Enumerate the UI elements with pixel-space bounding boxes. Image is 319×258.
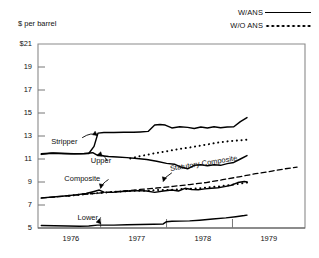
chart-root: W/ANS W/O ANS $ per barrel $211917151311… [0, 0, 319, 258]
y-tick-label: 19 [8, 62, 32, 71]
y-tick-label: 9 [8, 177, 32, 186]
x-tick-label: 1978 [183, 234, 223, 243]
y-tick-label: 5 [8, 223, 32, 232]
y-tick-label: 17 [8, 85, 32, 94]
y-tick-label: $21 [8, 39, 32, 48]
x-tick-label: 1977 [117, 234, 157, 243]
x-tick-label: 1979 [249, 234, 289, 243]
series-annotation-label: Upper [91, 156, 111, 165]
series-line [41, 215, 247, 226]
plot-area: $211917151311975 1976197719781979 Stripp… [0, 0, 319, 258]
series-annotation-label: Composite [64, 174, 100, 183]
x-tick-label: 1976 [51, 234, 91, 243]
series-annotation-label: Lower [78, 213, 98, 222]
y-tick-label: 11 [8, 154, 32, 163]
y-tick-label: 13 [8, 131, 32, 140]
chart-svg [0, 0, 319, 258]
series-annotation-label: Stripper [51, 137, 77, 146]
series-line [41, 167, 297, 198]
y-tick-label: 15 [8, 108, 32, 117]
y-tick-label: 7 [8, 200, 32, 209]
